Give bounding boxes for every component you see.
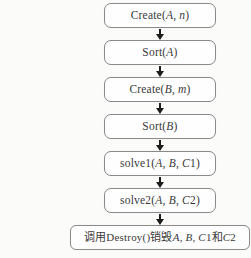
arrow-down-icon bbox=[156, 176, 164, 188]
variable-name: B bbox=[165, 83, 172, 95]
variable-name: A bbox=[155, 194, 162, 206]
flow-node-solve1: solve1(A, B, C1) bbox=[104, 151, 188, 176]
flow-node-label: Sort(B) bbox=[142, 121, 177, 133]
arrow-down-icon bbox=[156, 102, 164, 114]
variable-name: A bbox=[166, 46, 173, 58]
flow-node-sort-a: Sort(A) bbox=[104, 40, 188, 65]
label-text: Sort( bbox=[142, 120, 166, 132]
flow-node-label: solve1(A, B, C1) bbox=[120, 158, 188, 170]
variable-name: B bbox=[169, 157, 176, 169]
flow-node-destroy-all: 调用Destroy()销毁A, B, C1和C2 bbox=[70, 225, 188, 250]
variable-name: B bbox=[166, 120, 173, 132]
flow-node-label: solve2(A, B, C2) bbox=[120, 195, 188, 207]
flow-node-label: 调用Destroy()销毁A, B, C1和C2 bbox=[84, 232, 188, 243]
variable-name: B bbox=[169, 194, 176, 206]
label-text: ) bbox=[174, 120, 178, 132]
flow-node-label: Sort(A) bbox=[142, 47, 177, 59]
variable-name: m bbox=[178, 83, 187, 95]
label-text: 调用Destroy()销毁 bbox=[84, 231, 173, 243]
flow-node-solve2: solve2(A, B, C2) bbox=[104, 188, 188, 213]
flow-node-sort-b: Sort(B) bbox=[104, 114, 188, 139]
variable-name: A bbox=[155, 157, 162, 169]
label-text: ) bbox=[185, 9, 188, 21]
label-text: Create( bbox=[129, 83, 164, 95]
arrow-down-icon bbox=[156, 65, 164, 77]
variable-name: B bbox=[186, 231, 188, 243]
variable-name: C bbox=[182, 194, 188, 206]
label-text: ) bbox=[187, 83, 188, 95]
flow-node-label: Create(A, n) bbox=[131, 10, 188, 22]
variable-name: C bbox=[182, 157, 188, 169]
flow-node-create-a: Create(A, n) bbox=[104, 3, 188, 28]
arrow-down-icon bbox=[156, 213, 164, 225]
label-text: Sort( bbox=[142, 46, 166, 58]
label-text: solve2( bbox=[120, 194, 155, 206]
variable-name: A bbox=[173, 231, 180, 243]
flow-node-create-b: Create(B, m) bbox=[104, 77, 188, 102]
flow-node-label: Create(B, m) bbox=[129, 84, 188, 96]
flowchart: Create(A, n)Sort(A)Create(B, m)Sort(B)so… bbox=[0, 0, 188, 258]
label-text: Create( bbox=[131, 9, 166, 21]
arrow-down-icon bbox=[156, 139, 164, 151]
arrow-down-icon bbox=[156, 28, 164, 40]
label-text: solve1( bbox=[120, 157, 155, 169]
label-text: ) bbox=[174, 46, 178, 58]
